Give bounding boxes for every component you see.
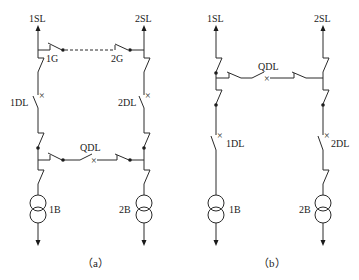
tie-breaker-qdl-blade-b bbox=[252, 72, 264, 78]
arrow-up-icon bbox=[142, 25, 147, 50]
panel-b: 1SL 2SL × QDL bbox=[207, 13, 349, 269]
arrow-down-icon bbox=[142, 223, 147, 246]
transformer-2b-icon bbox=[315, 195, 331, 223]
arrow-down-icon bbox=[214, 223, 219, 246]
breaker-x-icon: × bbox=[324, 130, 330, 141]
breaker-x-icon: × bbox=[264, 73, 270, 84]
diagram-canvas: 1SL 2SL 1G 2G × 1DL bbox=[0, 0, 359, 280]
caption-a: （a） bbox=[82, 257, 109, 269]
transformer-1b-icon bbox=[30, 195, 46, 223]
label-1b: 1B bbox=[49, 204, 61, 215]
breaker-x-icon: × bbox=[91, 155, 97, 166]
label-qdl-b: QDL bbox=[258, 61, 279, 72]
transformer-2b-icon bbox=[136, 195, 152, 223]
breaker-x-icon: × bbox=[217, 130, 223, 141]
label-1dl-b: 1DL bbox=[226, 138, 244, 149]
label-2b: 2B bbox=[119, 204, 131, 215]
disconnector-blade bbox=[144, 133, 150, 147]
label-2b-b: 2B bbox=[299, 204, 311, 215]
arrow-up-icon bbox=[321, 25, 326, 58]
breaker-1dl-blade bbox=[33, 96, 38, 108]
label-qdl: QDL bbox=[80, 142, 101, 153]
switch-contact-dot bbox=[61, 48, 65, 52]
disconnector-blade bbox=[144, 58, 150, 72]
label-2dl: 2DL bbox=[118, 97, 136, 108]
label-1g: 1G bbox=[46, 53, 58, 64]
label-2dl-b: 2DL bbox=[331, 138, 349, 149]
switch-2g-blade bbox=[115, 44, 128, 50]
arrow-up-icon bbox=[214, 25, 219, 58]
label-2g: 2G bbox=[111, 53, 123, 64]
disconnector-blade bbox=[38, 58, 44, 72]
label-1sl: 1SL bbox=[29, 13, 46, 24]
arrow-down-icon bbox=[321, 223, 326, 246]
caption-b: （b） bbox=[258, 257, 286, 269]
breaker-2dl-blade bbox=[139, 96, 144, 108]
arrow-down-icon bbox=[36, 223, 41, 246]
breaker-x-icon: × bbox=[39, 90, 45, 101]
transformer-1b-icon bbox=[208, 195, 224, 223]
label-1dl: 1DL bbox=[10, 97, 28, 108]
label-1sl-b: 1SL bbox=[207, 13, 224, 24]
panel-a: 1SL 2SL 1G 2G × 1DL bbox=[10, 13, 152, 269]
disconnector-blade bbox=[38, 133, 44, 147]
arrow-up-icon bbox=[36, 25, 41, 50]
label-1b-b: 1B bbox=[229, 204, 241, 215]
label-2sl-b: 2SL bbox=[314, 13, 331, 24]
breaker-x-icon: × bbox=[145, 90, 151, 101]
label-2sl: 2SL bbox=[135, 13, 152, 24]
